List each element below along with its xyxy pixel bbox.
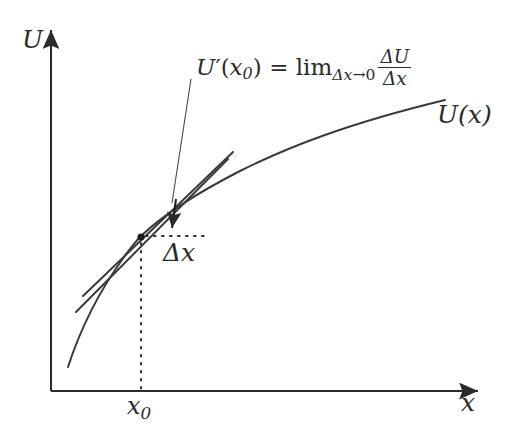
x-axis-label: x: [461, 390, 475, 415]
derivative-diagram: U x U(x) x0 Δx U′(x0) = limΔx→0ΔUΔx: [0, 0, 520, 433]
formula-variable-x: x: [230, 54, 243, 80]
tangent-line: [83, 152, 233, 296]
delta-x-label: Δx: [163, 240, 195, 265]
formula-fraction-denominator: Δx: [378, 67, 411, 88]
formula-fraction-numerator: ΔU: [378, 47, 411, 67]
formula-lim-subscript-delta: Δx: [332, 65, 352, 84]
x0-tick-variable: x: [127, 392, 141, 420]
x0-tick-label: x0: [127, 394, 151, 422]
formula-lim-operator: lim: [296, 54, 333, 80]
formula-lim-subscript-arrow: →0: [352, 65, 375, 84]
x0-tick-subscript: 0: [141, 403, 152, 423]
utility-curve: [68, 100, 445, 367]
formula-function-U: U: [196, 54, 215, 80]
secant-line: [76, 159, 228, 312]
formula-paren-open: (: [221, 54, 230, 80]
y-axis-label: U: [22, 27, 43, 52]
derivative-formula: U′(x0) = limΔx→0ΔUΔx: [196, 48, 411, 90]
formula-paren-close: ): [253, 54, 262, 80]
formula-difference-quotient: ΔUΔx: [378, 47, 411, 89]
tangency-point-marker: [137, 233, 144, 240]
curve-label: U(x): [437, 102, 492, 127]
formula-subscript-zero: 0: [243, 64, 253, 83]
formula-leader-line: [172, 79, 191, 203]
formula-equals-sign: =: [269, 54, 288, 80]
